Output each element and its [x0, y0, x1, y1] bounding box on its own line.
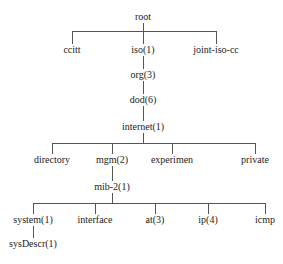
edge-mgm-mib2 [112, 166, 113, 181]
edge-to-icmp [265, 203, 266, 214]
edge-to-mgm [112, 143, 113, 154]
edge-root-trunk [143, 23, 144, 31]
edge-org-dod [143, 81, 144, 95]
edge-dod-internet [143, 106, 144, 121]
edge-internet-trunk [143, 133, 144, 143]
node-system: system(1) [12, 214, 53, 226]
edge-to-iso [143, 31, 144, 44]
edge-to-at [155, 203, 156, 214]
node-mgm: mgm(2) [95, 154, 129, 166]
node-ccitt: ccitt [62, 44, 81, 56]
node-mib-2: mib-2(1) [93, 181, 131, 193]
node-joint-iso-cc: joint-iso-cc [192, 44, 240, 56]
node-ip: ip(4) [197, 214, 218, 226]
edge-to-experimen [172, 143, 173, 154]
edge-to-interface [95, 203, 96, 214]
edge-to-private [255, 143, 256, 154]
edge-to-system [33, 203, 34, 214]
node-experimen: experimen [150, 154, 194, 166]
edge-level7-bar [33, 203, 266, 204]
node-at: at(3) [145, 214, 166, 226]
node-iso: iso(1) [130, 44, 155, 56]
edge-level5-bar [52, 143, 256, 144]
node-directory: directory [33, 154, 71, 166]
node-dod: dod(6) [129, 94, 158, 106]
edge-to-ccitt [72, 31, 73, 44]
edge-to-joint [216, 31, 217, 44]
node-private: private [240, 154, 270, 166]
node-icmp: icmp [254, 214, 276, 226]
edge-to-ip [208, 203, 209, 214]
node-root: root [134, 11, 152, 23]
edge-mib2-trunk [112, 193, 113, 203]
node-interface: interface [77, 214, 114, 226]
node-internet: internet(1) [121, 121, 165, 133]
edge-system-sysdescr [33, 226, 34, 238]
node-org: org(3) [130, 69, 157, 81]
edge-level1-bar [72, 31, 217, 32]
node-sysdescr: sysDescr(1) [8, 238, 58, 250]
edge-to-directory [52, 143, 53, 154]
edge-iso-org [143, 56, 144, 70]
